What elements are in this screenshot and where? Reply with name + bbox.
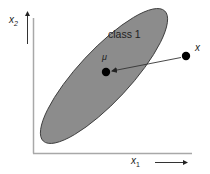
class-1-region xyxy=(24,0,183,159)
mean-label: μ xyxy=(101,52,107,62)
sample-label: x xyxy=(194,42,201,53)
mahalanobis-diagram: x2 x1 class 1 μ x xyxy=(0,0,210,174)
y-axis-label: x2 xyxy=(8,14,18,27)
x-axis-label: x1 xyxy=(130,155,140,168)
mean-point xyxy=(102,68,110,76)
sample-point xyxy=(182,52,190,60)
class-1-label: class 1 xyxy=(108,28,141,40)
